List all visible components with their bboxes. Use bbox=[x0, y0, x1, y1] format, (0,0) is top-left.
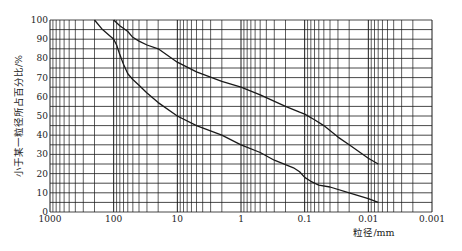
y-tick-label: 20 bbox=[37, 169, 49, 179]
y-tick-label: 40 bbox=[37, 130, 49, 140]
x-tick-label: 1000 bbox=[39, 214, 62, 224]
y-tick-label: 50 bbox=[37, 111, 49, 121]
x-tick-label: 10 bbox=[172, 214, 184, 224]
x-tick-label: 1 bbox=[238, 214, 244, 224]
curve-upper-envelope bbox=[114, 20, 379, 164]
y-tick-label: 70 bbox=[37, 73, 49, 83]
y-axis-label: 小于某一粒径所占百分比/% bbox=[13, 55, 24, 177]
grid-lines bbox=[50, 20, 432, 212]
grain-size-distribution-chart: 0102030405060708090100 10001001010.10.01… bbox=[0, 0, 462, 251]
x-axis-label: 粒径/mm bbox=[353, 227, 394, 238]
y-tick-label: 30 bbox=[37, 149, 49, 159]
y-tick-label: 100 bbox=[31, 15, 48, 25]
data-curves bbox=[95, 20, 379, 202]
y-tick-label: 60 bbox=[37, 92, 49, 102]
y-tick-label: 90 bbox=[37, 34, 49, 44]
y-tick-label: 80 bbox=[37, 53, 49, 63]
curve-lower-envelope bbox=[95, 20, 379, 202]
x-axis-ticks: 10001001010.10.010.001 bbox=[39, 214, 445, 224]
x-tick-label: 0.001 bbox=[419, 214, 445, 224]
x-tick-label: 100 bbox=[105, 214, 122, 224]
y-tick-label: 10 bbox=[37, 188, 49, 198]
x-tick-label: 0.1 bbox=[298, 214, 312, 224]
x-tick-label: 0.01 bbox=[358, 214, 378, 224]
y-axis-ticks: 0102030405060708090100 bbox=[31, 15, 48, 217]
